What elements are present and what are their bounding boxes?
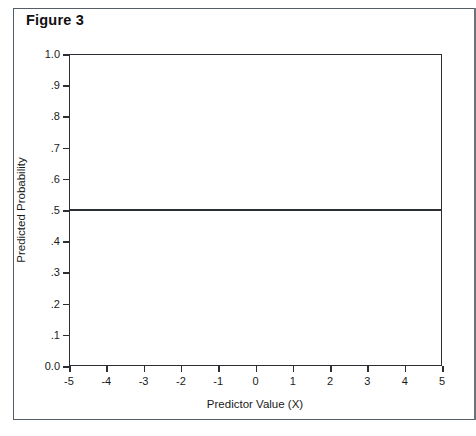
y-axis-tick-label: .6 [51, 173, 60, 185]
x-axis-tick-label: -4 [101, 375, 111, 387]
x-axis-tick-label: 3 [364, 375, 370, 387]
x-axis-title: Predictor Value (X) [207, 398, 303, 410]
y-axis-tick-label: 1.0 [45, 48, 60, 60]
x-axis-tick-label: -5 [64, 375, 74, 387]
x-axis-tick [218, 366, 220, 372]
page-title: Figure 3 [26, 12, 84, 28]
y-axis-tick [63, 54, 69, 56]
x-axis-tick [405, 366, 407, 372]
y-axis-tick [63, 116, 69, 118]
y-axis-title: Predicted Probability [15, 157, 27, 262]
y-axis-tick [63, 272, 69, 274]
y-axis-tick-label: .3 [51, 266, 60, 278]
x-axis-tick [367, 366, 369, 372]
x-axis-tick [144, 366, 146, 372]
x-axis-tick-label: 4 [402, 375, 408, 387]
chart-plot-area: 1.0.9.8.7.6.5.4.3.2.10.0 -5-4-3-2-101234… [69, 54, 442, 366]
y-axis-tick [63, 241, 69, 243]
x-axis-tick-label: 2 [327, 375, 333, 387]
y-axis-tick [63, 179, 69, 181]
y-axis-tick [63, 335, 69, 337]
x-axis-tick [181, 366, 183, 372]
y-axis-tick [63, 85, 69, 87]
x-axis-tick [442, 366, 444, 372]
y-axis-tick-label: .7 [51, 142, 60, 154]
x-axis-tick [330, 366, 332, 372]
y-axis-tick-label: .2 [51, 298, 60, 310]
y-axis-tick [63, 304, 69, 306]
x-axis-tick-label: 0 [252, 375, 258, 387]
y-axis-tick-label: .9 [51, 79, 60, 91]
x-axis-tick [106, 366, 108, 372]
y-axis-tick [63, 148, 69, 150]
x-axis-tick-label: 1 [290, 375, 296, 387]
y-axis-tick-label: .1 [51, 329, 60, 341]
x-axis-tick-label: -1 [213, 375, 223, 387]
x-axis-tick-label: -3 [139, 375, 149, 387]
y-axis-tick-label: .4 [51, 235, 60, 247]
x-axis-tick [256, 366, 258, 372]
x-axis-tick [293, 366, 295, 372]
y-axis-tick-label: .5 [51, 204, 60, 216]
x-axis-tick-label: -2 [176, 375, 186, 387]
y-axis-tick-label: 0.0 [45, 360, 60, 372]
y-axis-tick-label: .8 [51, 110, 60, 122]
data-series-line [69, 209, 442, 211]
x-axis-tick [69, 366, 71, 372]
x-axis-tick-label: 5 [439, 375, 445, 387]
